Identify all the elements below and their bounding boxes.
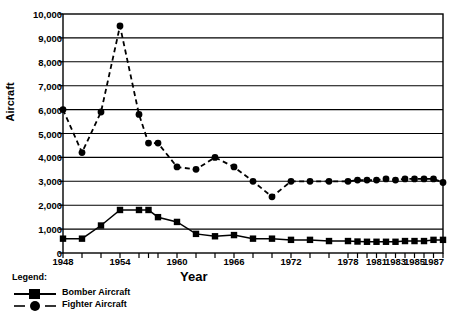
x-tick-label: 1954	[109, 256, 130, 267]
x-tick-label: 1960	[166, 256, 187, 267]
data-point-marker	[145, 140, 152, 147]
data-point-marker	[402, 176, 409, 183]
series-line-fighter-aircraft	[63, 26, 443, 197]
legend-item-bomber: Bomber Aircraft	[12, 288, 58, 300]
data-point-marker	[364, 239, 370, 245]
x-tick-label: 1978	[337, 256, 358, 267]
y-tick-label: 1,000	[38, 224, 62, 235]
data-point-marker	[307, 178, 314, 185]
data-point-marker	[373, 177, 380, 184]
data-point-marker	[345, 238, 351, 244]
data-point-marker	[364, 177, 371, 184]
data-point-marker	[212, 154, 219, 161]
x-tick-label: 1987	[423, 256, 444, 267]
x-tick-label: 1966	[223, 256, 244, 267]
data-point-marker	[392, 177, 399, 184]
data-point-marker	[269, 235, 275, 241]
data-point-marker	[117, 207, 123, 213]
data-point-marker	[231, 164, 238, 171]
aircraft-line-chart: Aircraft Year 01,0002,0003,0004,0005,000…	[0, 0, 455, 317]
data-point-marker	[155, 214, 161, 220]
data-point-marker	[269, 193, 276, 200]
data-point-marker	[79, 235, 85, 241]
data-point-marker	[136, 207, 142, 213]
data-point-marker	[402, 238, 408, 244]
data-point-marker	[430, 237, 436, 243]
data-point-marker	[354, 238, 360, 244]
y-tick-label: 6,000	[38, 104, 62, 115]
data-point-marker	[250, 178, 257, 185]
y-tick-label: 5,000	[38, 128, 62, 139]
y-tick-label: 8,000	[38, 56, 62, 67]
y-tick-label: 9,000	[38, 32, 62, 43]
data-point-marker	[345, 178, 352, 185]
data-point-marker	[373, 239, 379, 245]
legend-title: Legend:	[12, 272, 47, 282]
data-point-marker	[326, 238, 332, 244]
x-axis-title: Year	[180, 269, 207, 284]
data-point-marker	[354, 177, 361, 184]
data-point-marker	[155, 140, 162, 147]
data-point-marker	[193, 231, 199, 237]
data-point-marker	[98, 222, 104, 228]
data-point-marker	[174, 219, 180, 225]
y-tick-label: 2,000	[38, 200, 62, 211]
y-tick-label: 4,000	[38, 152, 62, 163]
data-point-marker	[212, 233, 218, 239]
data-point-marker	[145, 207, 151, 213]
data-point-marker	[231, 232, 237, 238]
data-point-marker	[193, 166, 200, 173]
data-point-marker	[421, 176, 428, 183]
data-point-marker	[288, 178, 295, 185]
y-tick-label: 7,000	[38, 80, 62, 91]
data-point-marker	[440, 179, 447, 186]
data-point-marker	[411, 238, 417, 244]
x-tick-label: 1972	[280, 256, 301, 267]
legend-label-bomber: Bomber Aircraft	[62, 287, 130, 297]
legend-swatch-bomber-solid-square	[12, 288, 58, 300]
x-tick-label: 1948	[52, 256, 73, 267]
data-point-marker	[383, 176, 390, 183]
data-point-marker	[136, 111, 143, 118]
x-tick-label: 1983	[385, 256, 406, 267]
y-axis-tick-labels: 01,0002,0003,0004,0005,0006,0007,0008,00…	[0, 0, 62, 317]
data-point-marker	[326, 178, 333, 185]
legend-item-fighter: Fighter Aircraft	[12, 300, 58, 312]
data-point-marker	[440, 237, 446, 243]
data-point-marker	[250, 235, 256, 241]
data-point-marker	[98, 109, 105, 116]
data-point-marker	[307, 237, 313, 243]
data-point-marker	[392, 239, 398, 245]
data-point-marker	[411, 176, 418, 183]
data-point-marker	[79, 149, 86, 156]
y-tick-label: 3,000	[38, 176, 62, 187]
data-point-marker	[174, 164, 181, 171]
plot-area	[0, 0, 455, 317]
data-point-marker	[288, 237, 294, 243]
data-point-marker	[421, 238, 427, 244]
legend-swatch-fighter-dashed-circle	[12, 300, 58, 312]
data-point-marker	[430, 176, 437, 183]
legend-label-fighter: Fighter Aircraft	[62, 299, 127, 309]
x-tick-label: 1981	[366, 256, 387, 267]
data-point-marker	[383, 239, 389, 245]
data-point-marker	[117, 23, 124, 30]
y-tick-label: 10,000	[33, 9, 62, 20]
x-tick-label: 1985	[404, 256, 425, 267]
